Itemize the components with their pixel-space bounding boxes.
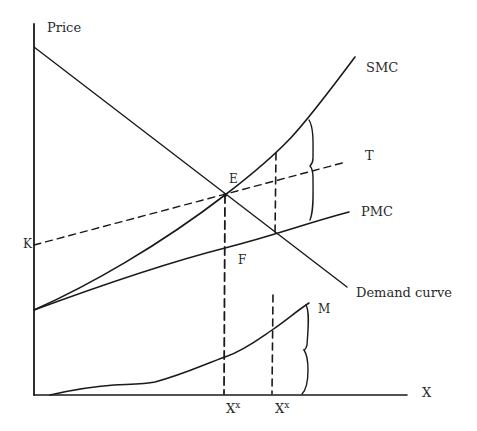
x-tick-1: Xx — [226, 402, 240, 415]
diagram-canvas — [0, 0, 477, 431]
brace-upper — [309, 120, 313, 220]
tax-line-t — [34, 162, 346, 245]
x-axis-label: X — [422, 386, 431, 399]
smc-label: SMC — [366, 61, 398, 74]
k-label: K — [23, 238, 32, 250]
pmc-curve — [34, 212, 349, 310]
external-cost-curve-m — [50, 303, 309, 395]
demand-curve-label: Demand curve — [356, 286, 452, 299]
smc-curve — [34, 57, 355, 310]
f-label: F — [238, 254, 246, 266]
brace-lower — [302, 305, 308, 394]
y-axis-label: Price — [47, 21, 81, 34]
point-e-marker — [223, 193, 227, 197]
economics-diagram: Price X SMC T PMC Demand curve M K E F X… — [0, 0, 477, 431]
dashed-vertical-upper-2 — [275, 153, 276, 236]
dashed-vertical-lower-2 — [272, 295, 273, 394]
m-label: M — [318, 303, 330, 315]
dashed-vertical-e — [224, 195, 225, 394]
t-label: T — [365, 149, 374, 162]
e-label: E — [229, 173, 238, 185]
pmc-label: PMC — [361, 205, 393, 218]
demand-curve — [34, 47, 347, 287]
x-tick-2: Xx — [275, 402, 289, 415]
